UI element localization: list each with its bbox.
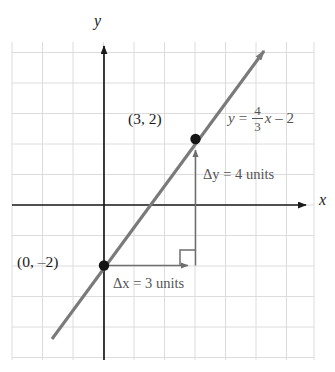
equation-lhs: y [228,111,235,126]
grid-lines [12,42,314,360]
point-0-neg2 [99,260,109,270]
point-label-0-neg2: (0, –2) [17,254,58,270]
equation-numerator: 4 [252,104,263,118]
equation-label: y = 4 3 x – 2 [228,104,294,133]
equation-constant: – 2 [275,111,294,126]
point-3-2 [190,134,200,144]
x-axis-label: x [319,192,326,208]
graph-figure: y x (3, 2) (0, –2) Δx = 3 units Δy = 4 u… [0,0,335,372]
graph-canvas [0,0,335,372]
plotted-line [52,51,264,339]
equation-equals: = [239,111,247,126]
axis-lines [12,46,306,360]
equation-fraction: 4 3 [252,104,263,133]
point-label-3-2: (3, 2) [128,111,162,127]
equation-denominator: 3 [252,118,263,133]
delta-y-label: Δy = 4 units [203,167,274,182]
delta-x-label: Δx = 3 units [113,276,184,291]
right-angle-marker [180,250,196,266]
y-axis-label: y [94,13,101,29]
equation-variable: x [265,111,272,126]
